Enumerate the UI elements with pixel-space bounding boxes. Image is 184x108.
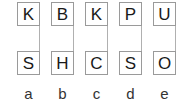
column-label: d [119,86,142,101]
column-d: P S d [119,0,153,108]
connector-line [107,26,108,51]
column-label: b [51,86,74,101]
column-label: c [85,86,108,101]
connector-line [73,26,74,51]
column-b: B H b [51,0,85,108]
column-c: K C c [85,0,119,108]
column-a: K S a [17,0,51,108]
top-letter-box: B [51,2,74,26]
bottom-letter-box: C [85,51,108,75]
connector-line [175,26,176,51]
connector-line [141,26,142,51]
top-letter-box: U [153,2,176,26]
bottom-letter-box: O [153,51,176,75]
bottom-letter-box: S [119,51,142,75]
column-e: U O e [153,0,184,108]
column-label: e [153,86,176,101]
bottom-letter-box: S [17,51,40,75]
top-letter-box: K [85,2,108,26]
connector-line [39,26,40,51]
top-letter-box: P [119,2,142,26]
top-letter-box: K [17,2,40,26]
column-label: a [17,86,40,101]
bottom-letter-box: H [51,51,74,75]
